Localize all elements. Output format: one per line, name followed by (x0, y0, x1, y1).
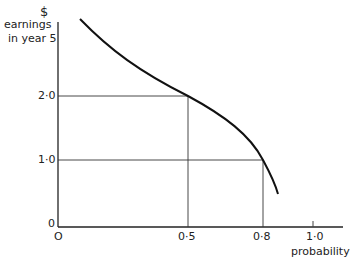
y-axis-label-line1: earnings (4, 19, 52, 31)
y-axis-symbol: $ (40, 6, 48, 18)
y-tick-label-2: 2·0 (38, 90, 56, 102)
y-tick-label-0: 0 (48, 218, 55, 230)
reference-line-0-8 (58, 160, 263, 227)
earnings-curve (80, 19, 278, 194)
x-tick-label-0-8: 0·8 (253, 231, 271, 243)
reference-line-0-5 (58, 96, 188, 227)
x-tick-label-0: O (54, 231, 63, 243)
y-axis-label-line2: in year 5 (8, 33, 57, 45)
x-tick-label-0-5: 0·5 (178, 231, 196, 243)
y-tick-label-1: 1·0 (38, 154, 56, 166)
x-axis-label: probability (291, 246, 350, 258)
x-tick-label-1-0: 1·0 (306, 231, 324, 243)
